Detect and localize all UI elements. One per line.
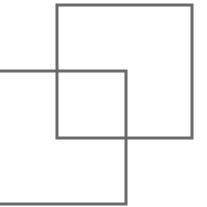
- overlapping-squares-diagram: [0, 0, 207, 207]
